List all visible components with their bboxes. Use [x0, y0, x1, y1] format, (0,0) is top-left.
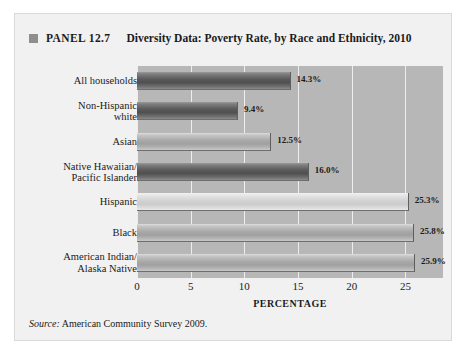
chart-plot-area: 14.3%9.4%12.5%16.0%25.3%25.8%25.9%	[137, 66, 443, 278]
bar	[137, 133, 271, 151]
category-label: All households	[21, 75, 137, 87]
bar-value-label: 12.5%	[277, 135, 302, 145]
bar-row: 14.3%	[137, 70, 443, 92]
panel-title-row: PANEL 12.7 Diversity Data: Poverty Rate,…	[29, 28, 439, 48]
page-title: Diversity Data: Poverty Rate, by Race an…	[127, 32, 412, 44]
source-label: Source:	[29, 318, 60, 329]
category-label: Black	[21, 227, 137, 239]
x-tick-label: 15	[286, 280, 310, 292]
bar	[137, 193, 409, 211]
bar-value-label: 25.3%	[415, 195, 440, 205]
x-tick-label: 0	[125, 280, 149, 292]
category-label: Asian	[21, 136, 137, 148]
category-label: Native Hawaiian/Pacific Islander	[21, 161, 137, 184]
square-bullet-icon	[29, 34, 38, 43]
bar-value-label: 25.8%	[420, 226, 445, 236]
bar	[137, 254, 415, 272]
x-axis-tick-labels: 0510152025	[137, 280, 443, 296]
category-label: Hispanic	[21, 196, 137, 208]
bar-row: 25.3%	[137, 191, 443, 213]
category-label: Non-Hispanicwhite	[21, 100, 137, 123]
x-tick-label: 5	[179, 280, 203, 292]
bar-value-label: 9.4%	[244, 104, 264, 114]
category-axis-labels: All householdsNon-HispanicwhiteAsianNati…	[21, 66, 137, 278]
x-tick-label: 25	[393, 280, 417, 292]
panel-number: PANEL 12.7	[46, 32, 111, 44]
bar	[137, 72, 291, 90]
x-axis-title: PERCENTAGE	[137, 298, 443, 309]
bar-row: 25.9%	[137, 252, 443, 274]
bar-row: 25.8%	[137, 222, 443, 244]
source-note: Source: American Community Survey 2009.	[29, 318, 207, 329]
bar-row: 12.5%	[137, 131, 443, 153]
category-label: American Indian/Alaska Native	[21, 251, 137, 274]
x-tick-label: 10	[232, 280, 256, 292]
x-tick-label: 20	[340, 280, 364, 292]
bar	[137, 102, 238, 120]
bar-value-label: 16.0%	[315, 165, 340, 175]
bar-row: 16.0%	[137, 161, 443, 183]
bar-value-label: 14.3%	[297, 74, 322, 84]
bar	[137, 224, 414, 242]
bar-row: 9.4%	[137, 100, 443, 122]
figure-panel: PANEL 12.7 Diversity Data: Poverty Rate,…	[14, 13, 452, 341]
source-value: American Community Survey 2009.	[60, 318, 208, 329]
bar	[137, 163, 309, 181]
bar-value-label: 25.9%	[421, 256, 446, 266]
